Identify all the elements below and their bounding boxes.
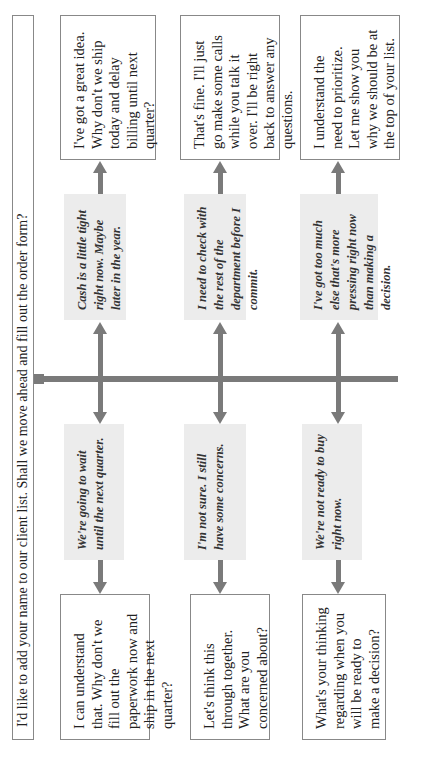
objection-text: I've got too much else that's more press…: [311, 214, 393, 310]
closing-question-box: I'd like to add your name to our client …: [12, 15, 34, 740]
shaft-to-response: [98, 560, 103, 583]
response-box-3-right: I understand the need to prioritize. Let…: [300, 15, 400, 160]
objection-box-2-left: I'm not sure. I still have some concerns…: [184, 424, 246, 560]
response-box-2-left: Let's think this through together. What …: [190, 594, 270, 740]
objection-box-3-right: I've got too much else that's more press…: [300, 194, 378, 320]
response-box-3-left: What's your thinking regarding when you …: [302, 594, 386, 740]
objection-text: We're going to wait until the next quart…: [75, 437, 106, 550]
response-text: I understand the need to prioritize. Let…: [311, 30, 397, 149]
objection-box-3-left: We're not ready to buy right now.: [302, 424, 362, 560]
branch-1-shaft-right: [98, 333, 103, 379]
arrow-right-icon: [93, 161, 107, 173]
branch-3-shaft-right: [336, 333, 341, 379]
shaft-to-response: [98, 172, 103, 194]
objection-text: We're not ready to buy right now.: [313, 434, 344, 550]
objection-box-1-left: We're going to wait until the next quart…: [64, 424, 124, 560]
arrow-left-icon: [331, 582, 345, 594]
objection-box-1-right: Cash is a little tight right now. Maybe …: [64, 194, 126, 320]
objection-flow-diagram: I'd like to add your name to our client …: [0, 0, 427, 758]
arrow-right-icon: [213, 161, 227, 173]
branch-1-shaft-left: [98, 379, 103, 413]
response-text: I've got a great idea. Why don't we ship…: [71, 32, 157, 149]
response-text: That's fine. I'll just go make some call…: [191, 35, 295, 149]
arrow-right-icon: [331, 322, 345, 334]
arrow-left-icon: [331, 412, 345, 424]
branch-3-shaft-left: [336, 379, 341, 413]
closing-question-text: I'd like to add your name to our client …: [13, 214, 33, 727]
arrow-left-icon: [213, 412, 227, 424]
arrow-left-icon: [93, 412, 107, 424]
main-spine-line: [34, 376, 398, 382]
branch-2-shaft-right: [218, 333, 223, 379]
arrow-right-icon: [213, 322, 227, 334]
response-text: I can understand that. Why don't we fill…: [71, 614, 175, 729]
response-box-1-left: I can understand that. Why don't we fill…: [60, 594, 150, 740]
response-text: Let's think this through together. What …: [201, 627, 270, 729]
shaft-to-response: [336, 172, 341, 194]
shaft-to-response: [218, 172, 223, 194]
shaft-to-response: [218, 560, 223, 583]
objection-text: I'm not sure. I still have some concerns…: [195, 443, 226, 550]
arrow-left-icon: [93, 582, 107, 594]
branch-2-shaft-left: [218, 379, 223, 413]
shaft-to-response: [336, 560, 341, 583]
objection-box-2-right: I need to check with the rest of the dep…: [184, 194, 246, 320]
arrow-right-icon: [93, 322, 107, 334]
objection-text: I need to check with the rest of the dep…: [195, 207, 260, 310]
objection-text: Cash is a little tight right now. Maybe …: [75, 210, 123, 310]
response-text: What's your thinking regarding when you …: [313, 607, 382, 729]
response-box-1-right: I've got a great idea. Why don't we ship…: [60, 15, 156, 160]
arrow-right-icon: [331, 161, 345, 173]
arrow-left-icon: [213, 582, 227, 594]
response-box-2-right: That's fine. I'll just go make some call…: [180, 15, 280, 160]
spine-taper: [34, 374, 44, 384]
